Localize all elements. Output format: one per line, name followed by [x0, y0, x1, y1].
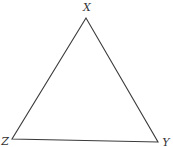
triangle-diagram: X Z Y — [0, 0, 173, 147]
vertex-label-x: X — [82, 1, 92, 14]
triangle-xyz — [12, 18, 158, 142]
vertex-label-y: Y — [162, 136, 171, 147]
vertex-label-z: Z — [0, 135, 9, 147]
